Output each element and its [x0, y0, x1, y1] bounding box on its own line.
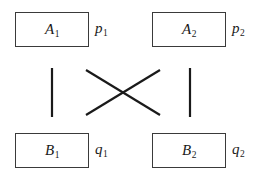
- node-box-b1: B1: [15, 133, 89, 168]
- node-box-a1: A1: [15, 12, 89, 47]
- side-label-p1: p1: [95, 21, 107, 36]
- side-label-p2: p2: [232, 21, 244, 36]
- node-label-a1: A1: [45, 22, 59, 37]
- side-label-q2: q2: [232, 142, 244, 157]
- node-box-a2: A2: [152, 12, 226, 47]
- diagram-canvas: A1 p1 A2 p2 B1 q1 B2 q2: [0, 0, 265, 178]
- node-label-b1: B1: [45, 143, 59, 158]
- node-box-b2: B2: [152, 133, 226, 168]
- node-label-a2: A2: [182, 22, 196, 37]
- side-label-q1: q1: [95, 142, 107, 157]
- node-label-b2: B2: [182, 143, 196, 158]
